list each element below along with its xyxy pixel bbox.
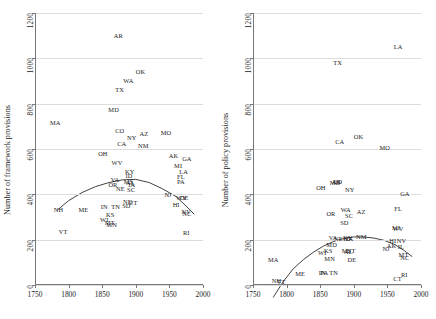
gridline-y-600 xyxy=(253,149,421,150)
data-point-nm-right: NM xyxy=(356,234,367,240)
data-point-ia-right: IA xyxy=(346,236,353,242)
data-point-wa-left: WA xyxy=(123,78,133,84)
x-tick-mark-2000 xyxy=(421,285,422,288)
y-tick-label-800: 800 xyxy=(27,104,35,115)
data-point-ma-right: MA xyxy=(268,257,279,263)
panel-framework-provisions: Number of framework provisions 020040060… xyxy=(0,0,218,319)
y-tick-label-600: 600 xyxy=(27,149,35,160)
data-point-sd-left: SD xyxy=(122,203,130,209)
x-tick-mark-1900 xyxy=(354,285,355,288)
data-point-de-right: DE xyxy=(347,256,356,262)
gridline-y-0 xyxy=(253,285,421,286)
data-point-hi-left: HI xyxy=(173,201,180,207)
data-point-sd-right: SD xyxy=(340,219,348,225)
y-axis-line xyxy=(35,13,36,285)
data-point-vt-right: VT xyxy=(277,278,286,284)
gridline-y-600 xyxy=(35,149,203,150)
data-point-az-left: AZ xyxy=(140,131,149,137)
data-point-ri-left: RI xyxy=(183,230,190,236)
x-tick-mark-1750 xyxy=(35,285,36,288)
data-point-oh-left: OH xyxy=(98,151,107,157)
gridline-y-1200 xyxy=(35,13,203,14)
gridline-y-400 xyxy=(253,194,421,195)
data-point-la-right: LA xyxy=(394,44,403,50)
x-tick-label-1900: 1900 xyxy=(346,290,361,299)
data-point-ut-right: UT xyxy=(347,248,356,254)
x-tick-label-2000: 2000 xyxy=(414,290,429,299)
x-tick-mark-1900 xyxy=(136,285,137,288)
data-point-nm-left: NM xyxy=(138,143,149,149)
data-point-or-right: OR xyxy=(326,210,335,216)
data-point-ne-left: NE xyxy=(116,185,125,191)
data-point-md-left: MD xyxy=(108,107,119,113)
y-axis-line xyxy=(253,13,254,285)
data-point-ga-left: GA xyxy=(182,156,191,162)
x-tick-mark-1800 xyxy=(69,285,70,288)
plot-area-right: 0200400600800100012001750180018501900195… xyxy=(253,13,421,285)
data-point-nj-left: NJ xyxy=(164,192,171,198)
x-tick-mark-1750 xyxy=(253,285,254,288)
data-point-co-left: CO xyxy=(115,128,124,134)
data-point-ca-left: CA xyxy=(117,141,126,147)
x-tick-mark-1850 xyxy=(102,285,103,288)
data-point-ny-right: NY xyxy=(345,187,354,193)
data-point-ok-left: OK xyxy=(136,69,145,75)
y-tick-label-600: 600 xyxy=(245,149,253,160)
y-axis-label-left: Number of framework provisions xyxy=(3,105,12,215)
x-tick-label-2000: 2000 xyxy=(196,290,211,299)
data-point-ri-right: RI xyxy=(401,272,408,278)
data-point-pa-right: PA xyxy=(320,269,328,275)
data-point-wv-left: WV xyxy=(112,159,123,165)
data-point-ak-left: AK xyxy=(169,153,178,159)
data-point-mo-left: MO xyxy=(161,129,172,135)
data-point-mo-right: MO xyxy=(379,145,390,151)
gridline-y-800 xyxy=(253,104,421,105)
panel-policy-provisions: Number of policy provisions 020040060080… xyxy=(218,0,436,319)
data-point-nc-right: NC xyxy=(400,255,409,261)
data-point-mn-left: MN xyxy=(106,222,117,228)
data-point-ma-left: MA xyxy=(50,120,61,126)
data-point-de-left: DE xyxy=(180,195,189,201)
x-tick-label-1800: 1800 xyxy=(61,290,76,299)
x-tick-mark-1850 xyxy=(320,285,321,288)
x-tick-label-1750: 1750 xyxy=(246,290,261,299)
y-tick-label-0: 0 xyxy=(27,285,35,289)
x-tick-label-1950: 1950 xyxy=(162,290,177,299)
data-point-ar-left: AR xyxy=(114,32,123,38)
x-tick-label-1950: 1950 xyxy=(380,290,395,299)
y-tick-label-400: 400 xyxy=(27,194,35,205)
data-point-tn-right: TN xyxy=(329,270,338,276)
x-tick-mark-1800 xyxy=(287,285,288,288)
y-tick-label-0: 0 xyxy=(245,285,253,289)
data-point-ny-left: NY xyxy=(127,134,136,140)
data-point-md-right: MD xyxy=(330,180,341,186)
y-tick-label-1000: 1000 xyxy=(245,58,253,73)
x-tick-label-1750: 1750 xyxy=(28,290,43,299)
data-point-mn-right: MN xyxy=(324,256,335,262)
gridline-y-1000 xyxy=(35,58,203,59)
data-point-pa-left: PA xyxy=(177,179,185,185)
data-point-in-left: IN xyxy=(101,204,108,210)
data-point-il-right: IL xyxy=(398,244,404,250)
y-tick-label-800: 800 xyxy=(245,104,253,115)
data-point-ct-right: CT xyxy=(393,276,401,282)
data-point-ks-right: KS xyxy=(324,248,332,254)
x-axis-line xyxy=(35,284,203,285)
x-tick-label-1900: 1900 xyxy=(128,290,143,299)
x-tick-mark-1950 xyxy=(169,285,170,288)
x-tick-mark-1950 xyxy=(387,285,388,288)
data-point-wv-right: WV xyxy=(393,226,404,232)
plot-area-left: 0200400600800100012001750180018501900195… xyxy=(35,13,203,285)
y-tick-label-200: 200 xyxy=(245,240,253,251)
data-point-ok-right: OK xyxy=(354,134,363,140)
data-point-tn-left: TN xyxy=(111,204,120,210)
data-point-nh-left: NH xyxy=(54,206,63,212)
data-point-me-left: ME xyxy=(78,207,88,213)
y-tick-label-1200: 1200 xyxy=(245,13,253,28)
data-point-nj-right: NJ xyxy=(382,246,389,252)
data-point-vt-left: VT xyxy=(59,229,68,235)
x-tick-mark-2000 xyxy=(203,285,204,288)
data-point-fl-right: FL xyxy=(394,206,402,212)
gridline-y-200 xyxy=(35,240,203,241)
y-tick-label-1200: 1200 xyxy=(27,13,35,28)
